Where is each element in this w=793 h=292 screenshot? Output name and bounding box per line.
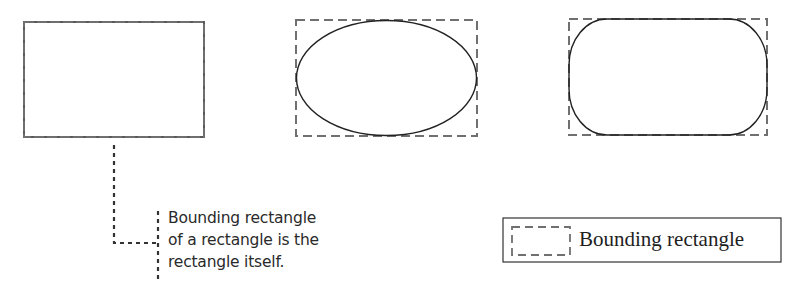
rounded-rectangle-bounding-rectangle — [569, 19, 767, 135]
callout-line: rectangle itself. — [168, 251, 319, 273]
callout-line: of a rectangle is the — [168, 229, 319, 251]
legend-label: Bounding rectangle — [579, 227, 744, 252]
ellipse — [297, 21, 477, 136]
rounded-rectangle — [569, 19, 767, 135]
callout-leader — [114, 145, 158, 282]
rectangle-shape — [24, 22, 204, 137]
legend-dashed-swatch-icon — [512, 227, 570, 255]
callout-line: Bounding rectangle — [168, 207, 319, 229]
ellipse-shape — [296, 20, 477, 136]
rounded-rectangle-shape — [569, 19, 767, 135]
callout-text: Bounding rectangle of a rectangle is the… — [168, 207, 319, 273]
